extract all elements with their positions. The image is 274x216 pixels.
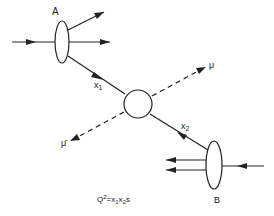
hadron-a-label: A (52, 6, 59, 17)
muon-label: μ (209, 60, 214, 70)
interaction-vertex (124, 90, 152, 118)
hadron-b-spectator-lines (166, 157, 206, 173)
antimuon-line (70, 112, 124, 141)
parton-2-label: x2 (181, 121, 190, 132)
parton-1-label: x1 (94, 80, 103, 91)
hadron-a-incoming-line (12, 39, 55, 45)
parton-2-line (150, 114, 208, 150)
antimuon-label: μ̄ (61, 138, 68, 148)
muon-line (152, 67, 206, 96)
hadron-b-label: B (214, 195, 220, 205)
hadron-b-ellipse (206, 141, 222, 189)
drell-yan-diagram: A B x1 x2 μ μ̄ Q2=x1x2s (0, 0, 274, 216)
hadron-a-spectator-lines (68, 12, 110, 45)
formula: Q2=x1x2s (97, 194, 130, 205)
hadron-b-incoming-line (222, 163, 264, 169)
hadron-a-ellipse (55, 21, 69, 63)
